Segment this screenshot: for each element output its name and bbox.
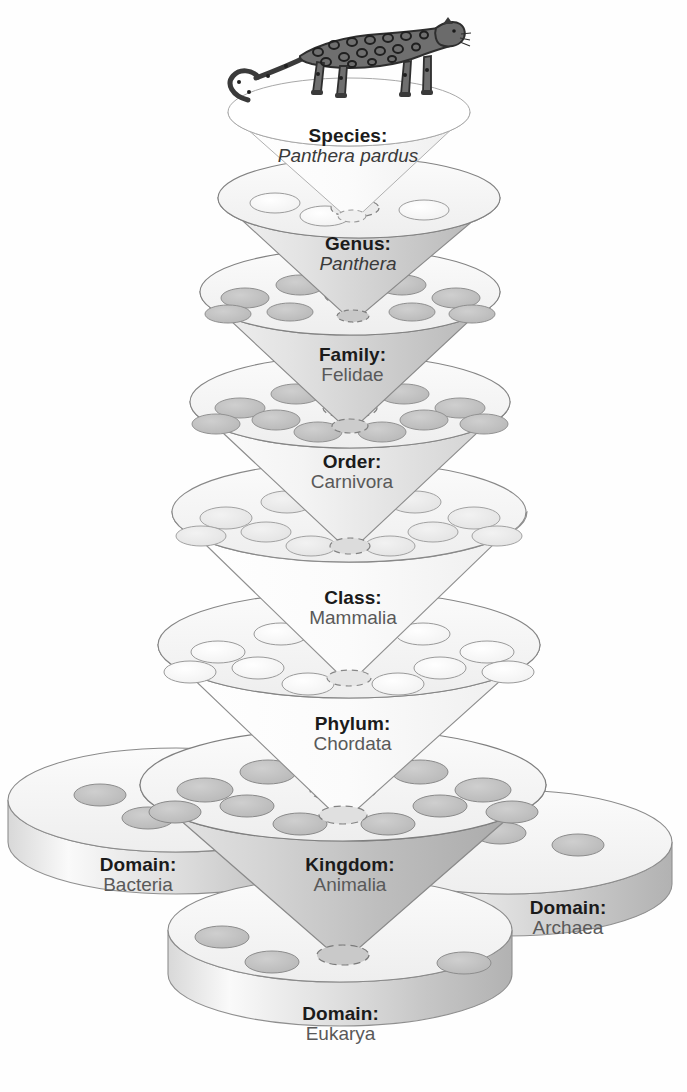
funnel-stack-graphic: [0, 0, 687, 1092]
classification-diagram: Species: Panthera pardus Genus: Panthera…: [0, 0, 687, 1092]
